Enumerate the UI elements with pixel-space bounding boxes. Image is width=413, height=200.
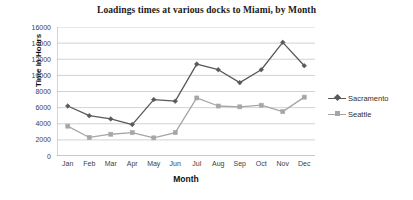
legend-item-sacramento[interactable]: Sacramento <box>328 90 412 106</box>
y-axis-tick: 14000 <box>5 40 51 47</box>
y-axis-tick: 2000 <box>5 136 51 143</box>
chart-title: Loadings times at various docks to Miami… <box>0 5 413 15</box>
legend-item-seattle[interactable]: Seattle <box>328 106 412 122</box>
chart-container: Loadings times at various docks to Miami… <box>0 0 413 200</box>
y-axis-tick: 16000 <box>5 24 51 31</box>
x-axis-title: Month <box>57 174 315 184</box>
x-axis-tick: Dec <box>289 160 319 167</box>
y-axis-tick: 8000 <box>5 88 51 95</box>
y-axis-tick: 4000 <box>5 120 51 127</box>
y-axis-tick: 0 <box>5 153 51 160</box>
y-axis-tick: 6000 <box>5 104 51 111</box>
chart-plot-svg <box>57 27 315 156</box>
y-axis-tick: 12000 <box>5 56 51 63</box>
y-axis-tick: 10000 <box>5 72 51 79</box>
legend-label-sacramento: Sacramento <box>346 94 388 103</box>
legend-swatch-sacramento <box>328 93 346 103</box>
legend-swatch-seattle <box>328 109 346 119</box>
legend-label-seattle: Seattle <box>346 110 371 119</box>
chart-legend: Sacramento Seattle <box>328 90 412 122</box>
plot-area <box>57 27 315 156</box>
